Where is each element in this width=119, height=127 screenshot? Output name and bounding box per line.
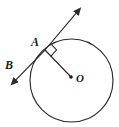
geometry-canvas: A B O: [0, 0, 119, 127]
radius-segment-ao: [45, 50, 71, 77]
tangent-ray-upper-right: [45, 13, 77, 50]
geometry-figure: A B O: [0, 0, 119, 127]
right-angle-marker: [51, 44, 57, 56]
label-point-a: A: [30, 35, 39, 49]
label-point-o: O: [76, 72, 84, 84]
circle-outline: [30, 39, 113, 122]
label-point-b: B: [4, 58, 13, 72]
center-point-dot: [69, 75, 73, 79]
